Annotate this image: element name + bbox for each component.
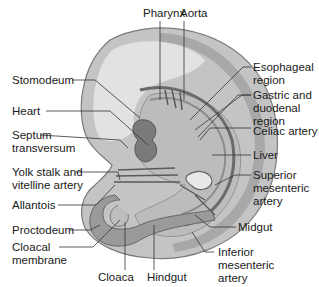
label-inferior: Inferior: [218, 246, 254, 259]
label-superior-3: artery: [253, 195, 282, 208]
label-gastric-2: duodenal: [253, 102, 300, 115]
label-cloaca: Cloaca: [98, 271, 134, 284]
label-proctodeum: Proctodeum: [12, 224, 74, 237]
label-esophageal-2: region: [253, 74, 285, 87]
label-midgut: Midgut: [238, 221, 273, 234]
label-inferior-3: artery: [218, 272, 247, 285]
embryo-diagram: Pharynx Aorta Stomodeum Esophageal regio…: [0, 0, 319, 287]
label-pharynx: Pharynx: [143, 7, 185, 20]
label-superior-2: mesenteric: [253, 182, 309, 195]
label-septum: Septum: [12, 129, 52, 142]
label-aorta: Aorta: [180, 7, 208, 20]
label-liver: Liver: [253, 149, 278, 162]
label-gastric: Gastric and: [253, 89, 312, 102]
label-cloacal: Cloacal: [12, 241, 50, 254]
label-yolk: Yolk stalk and: [12, 166, 83, 179]
label-celiac: Celiac artery: [253, 125, 318, 138]
label-septum-2: transversum: [12, 142, 75, 155]
label-hindgut: Hindgut: [147, 271, 187, 284]
label-stomodeum: Stomodeum: [12, 74, 74, 87]
label-allantois: Allantois: [12, 199, 55, 212]
label-heart: Heart: [12, 105, 40, 118]
label-inferior-2: mesenteric: [218, 259, 274, 272]
label-yolk-2: vitelline artery: [12, 179, 83, 192]
label-cloacal-2: membrane: [12, 254, 67, 267]
label-superior: Superior: [253, 169, 296, 182]
label-esophageal: Esophageal: [253, 61, 314, 74]
